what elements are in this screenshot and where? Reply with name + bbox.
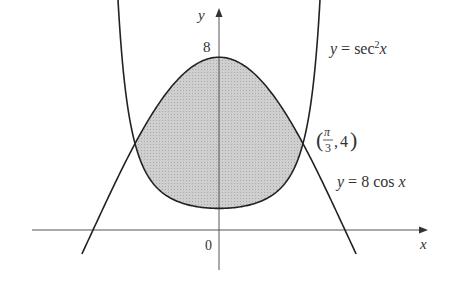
y-axis-arrow-icon	[216, 8, 223, 17]
y-axis-label: y	[196, 7, 205, 23]
comma: ,	[334, 133, 338, 150]
eight-cos-label: y = 8 cos x	[335, 173, 406, 191]
intersection-label: ( π 3 , 4 )	[316, 125, 357, 155]
open-paren: (	[316, 127, 323, 152]
y-value-four: 4	[340, 133, 348, 150]
pi-numerator: π	[324, 125, 331, 139]
x-axis-label: x	[419, 236, 427, 252]
x-axis-arrow-icon	[419, 227, 428, 234]
close-paren: )	[350, 127, 357, 152]
region-diagram: y x 0 8 y = sec2x y = 8 cos x ( π 3 , 4 …	[0, 0, 455, 284]
sec-squared-label: y = sec2x	[328, 39, 387, 58]
origin-label: 0	[205, 238, 212, 253]
y-tick-label-8: 8	[203, 39, 211, 55]
three-denominator: 3	[325, 141, 331, 155]
